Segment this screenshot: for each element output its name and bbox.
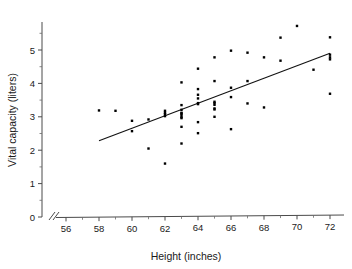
data-point [246, 51, 248, 53]
data-point [197, 97, 199, 99]
data-point [131, 120, 133, 122]
x-axis-tick-label: 64 [193, 222, 204, 233]
data-point [131, 130, 133, 132]
data-point [164, 162, 166, 164]
x-axis-title: Height (inches) [151, 250, 222, 262]
data-point [98, 109, 100, 111]
data-point [329, 58, 331, 60]
y-axis-tick-label: 2 [30, 145, 35, 156]
data-point [263, 106, 265, 108]
x-axis-line [56, 215, 344, 218]
data-point [213, 108, 215, 110]
data-point [296, 25, 298, 27]
data-point [197, 94, 199, 96]
y-axis-tick-label: 5 [30, 45, 35, 56]
data-point [279, 36, 281, 38]
data-point [180, 81, 182, 83]
axes-group [42, 22, 344, 220]
data-point [180, 112, 182, 114]
data-point [213, 80, 215, 82]
x-axis-tick-label: 62 [160, 223, 171, 234]
data-point [180, 117, 182, 119]
data-point [164, 113, 166, 115]
data-point [197, 132, 199, 134]
y-axis-tick-label: 1 [30, 178, 35, 189]
x-axis-tick-label: 70 [292, 221, 303, 232]
data-point [197, 88, 199, 90]
data-point [114, 110, 116, 112]
x-axis-tick-label: 66 [226, 222, 237, 233]
tick-labels-group: 565860626466687072012345 [30, 45, 336, 235]
regression-line-group [99, 53, 330, 141]
y-axis-tick-label: 0 [30, 212, 35, 223]
data-point [329, 93, 331, 95]
data-point [246, 102, 248, 104]
ticks-group [38, 33, 330, 221]
data-point [246, 80, 248, 82]
x-axis-tick-label: 56 [61, 223, 72, 234]
x-axis-tick-label: 68 [259, 222, 270, 233]
scatter-plot-figure: 565860626466687072012345 Height (inches)… [0, 0, 352, 269]
data-point [180, 104, 182, 106]
y-axis-tick-label: 4 [30, 78, 35, 89]
data-point [197, 68, 199, 70]
data-point [213, 116, 215, 118]
data-point [180, 142, 182, 144]
data-point [197, 121, 199, 123]
data-point [263, 56, 265, 58]
x-axis-tick-label: 58 [94, 223, 105, 234]
data-point [329, 36, 331, 38]
data-point [279, 59, 281, 61]
data-point [230, 96, 232, 98]
data-point [197, 103, 199, 105]
data-point [329, 53, 331, 55]
data-point [230, 87, 232, 89]
data-point [213, 104, 215, 106]
data-point [230, 128, 232, 130]
x-axis-tick-label: 72 [325, 221, 336, 232]
data-point [213, 56, 215, 58]
y-axis-title: Vital capacity (liters) [6, 73, 18, 167]
plot-canvas: 565860626466687072012345 Height (inches)… [0, 0, 352, 269]
y-axis-tick-label: 3 [30, 111, 35, 122]
data-point [180, 109, 182, 111]
data-point [230, 49, 232, 51]
x-axis-tick-label: 60 [127, 223, 138, 234]
data-point [180, 126, 182, 128]
data-points-group [98, 25, 331, 165]
regression-line [99, 53, 330, 141]
data-point [147, 118, 149, 120]
data-point [147, 147, 149, 149]
data-point [312, 69, 314, 71]
